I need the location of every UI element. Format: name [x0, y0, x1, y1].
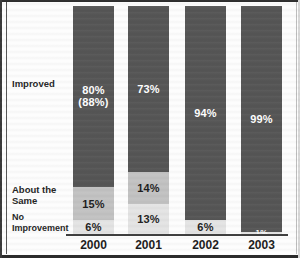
- bar-2003-improved-value: 99%: [250, 113, 273, 125]
- bar-2001-improved-value: 73%: [137, 83, 160, 95]
- bar-2002-none-value: 6%: [197, 221, 213, 233]
- bar-2003[interactable]: 99% 1%: [241, 6, 282, 234]
- bar-2000-none-value: 6%: [85, 221, 101, 233]
- x-axis-line: [66, 234, 288, 236]
- bar-2000-same-value: 15%: [82, 198, 105, 210]
- bar-2000[interactable]: 80% (88%) 15% 6%: [73, 6, 114, 234]
- row-label-improved: Improved: [12, 78, 55, 89]
- bar-2000-improved-note: (88%): [78, 96, 108, 108]
- x-axis-label-2002: 2002: [185, 238, 226, 252]
- bar-2000-improved-labels: 80% (88%): [78, 84, 108, 108]
- bar-2001-improved-labels: 73%: [137, 83, 160, 95]
- row-label-about-the-same-line2: Same: [12, 195, 56, 206]
- x-axis-label-2000: 2000: [73, 238, 114, 252]
- row-label-no-improvement-line1: No: [12, 212, 69, 223]
- bar-2003-segment-improved: 99%: [241, 6, 282, 232]
- bar-2002-segment-improved: 94%: [185, 6, 226, 220]
- bar-2002[interactable]: 94% 6%: [185, 6, 226, 234]
- bar-2000-segment-no-improvement: 6%: [73, 220, 114, 234]
- x-axis-label-2003: 2003: [241, 238, 282, 252]
- plot-area: Improved About the Same No Improvement 8…: [0, 0, 300, 258]
- row-label-about-the-same: About the Same: [12, 184, 56, 206]
- chart-page: Improved About the Same No Improvement 8…: [0, 0, 300, 258]
- bar-2002-segment-no-improvement: 6%: [185, 220, 226, 234]
- bar-2002-improved-labels: 94%: [194, 107, 217, 119]
- bar-2003-improved-labels: 99%: [250, 113, 273, 125]
- bar-2001[interactable]: 73% 14% 13%: [128, 6, 169, 234]
- bar-2001-same-value: 14%: [137, 182, 160, 194]
- row-label-about-the-same-line1: About the: [12, 184, 56, 195]
- bar-2000-segment-improved: 80% (88%): [73, 6, 114, 187]
- bar-2000-segment-about-the-same: 15%: [73, 187, 114, 221]
- bar-2001-segment-about-the-same: 14%: [128, 172, 169, 204]
- bar-2001-none-value: 13%: [137, 213, 160, 225]
- bar-2001-segment-no-improvement: 13%: [128, 204, 169, 234]
- x-axis-label-2001: 2001: [128, 238, 169, 252]
- bar-2002-improved-value: 94%: [194, 107, 217, 119]
- bar-2000-improved-value: 80%: [78, 84, 108, 96]
- bar-2001-segment-improved: 73%: [128, 6, 169, 172]
- row-label-no-improvement-line2: Improvement: [12, 223, 69, 234]
- row-label-no-improvement: No Improvement: [12, 212, 69, 234]
